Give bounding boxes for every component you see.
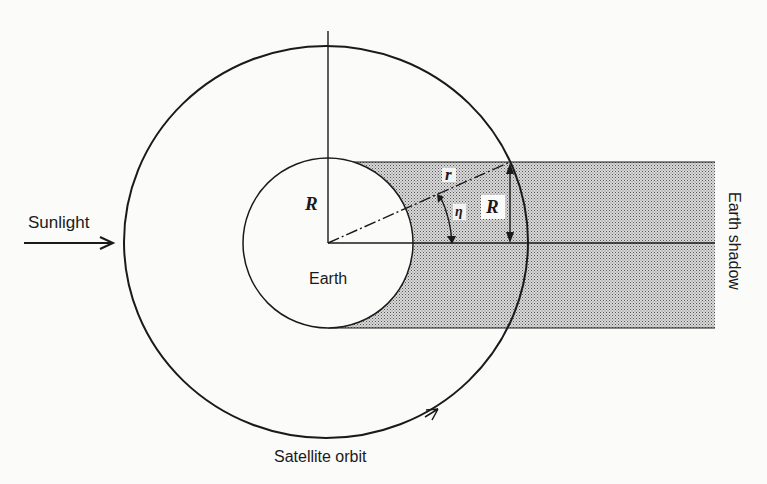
orbit-shadow-diagram: Sunlight Earth Satellite orbit Earth sha… xyxy=(0,0,767,484)
sunlight-arrow-icon xyxy=(24,237,113,249)
orbit-direction-arrow-icon xyxy=(425,409,438,420)
earth-radius-label: R xyxy=(304,193,318,214)
earth-shadow-label: Earth shadow xyxy=(726,192,743,290)
shadow-half-width-label: R xyxy=(485,196,499,217)
earth-label: Earth xyxy=(309,270,347,287)
satellite-orbit-label: Satellite orbit xyxy=(274,448,367,465)
orbit-radius-label: r xyxy=(445,165,452,184)
sunlight-label: Sunlight xyxy=(28,213,90,232)
angle-eta-label: η xyxy=(455,204,463,219)
